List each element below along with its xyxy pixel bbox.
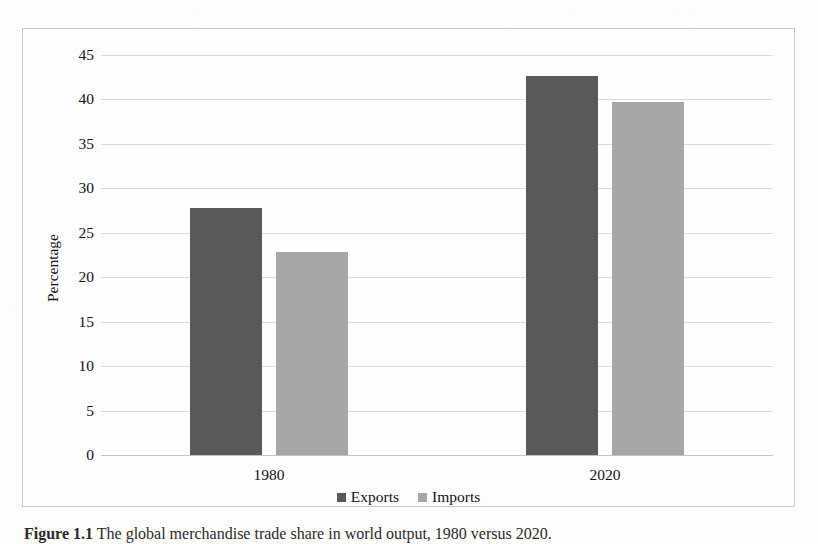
bar-group: 1980: [101, 55, 437, 455]
x-axis-tick-label: 1980: [101, 466, 437, 484]
legend-label: Imports: [432, 488, 480, 506]
legend-swatch-icon: [337, 493, 346, 502]
legend-swatch-icon: [418, 493, 427, 502]
chart-frame: Percentage 45403530252015105019802020 Ex…: [22, 28, 795, 507]
y-axis-tick-label: 20: [79, 269, 95, 285]
y-axis-tick-label: 35: [79, 136, 95, 152]
bar-exports-2020[interactable]: [526, 76, 598, 455]
legend-label: Exports: [351, 488, 399, 506]
y-axis-tick-label: 5: [86, 403, 94, 419]
y-axis-label: Percentage: [44, 234, 62, 302]
figure-caption: Figure 1.1 The global merchandise trade …: [24, 524, 784, 544]
caption-text: The global merchandise trade share in wo…: [97, 525, 552, 542]
y-axis-tick-label: 45: [79, 47, 95, 63]
y-axis-tick-label: 40: [79, 92, 95, 108]
gridline: [101, 455, 773, 456]
plot-area: 45403530252015105019802020: [101, 55, 773, 455]
bar-group: 2020: [437, 55, 773, 455]
chart-legend: ExportsImports: [23, 488, 794, 506]
legend-item-exports[interactable]: Exports: [337, 488, 399, 506]
legend-item-imports[interactable]: Imports: [418, 488, 480, 506]
y-axis-tick-label: 25: [79, 225, 95, 241]
x-axis-tick-label: 2020: [437, 466, 773, 484]
y-axis-tick-label: 0: [86, 447, 94, 463]
y-axis-tick-label: 30: [79, 181, 95, 197]
caption-label: Figure 1.1: [24, 525, 93, 542]
y-axis-tick-label: 10: [79, 358, 95, 374]
bar-exports-1980[interactable]: [190, 208, 262, 455]
bar-imports-1980[interactable]: [276, 252, 348, 455]
y-axis-tick-label: 15: [79, 314, 95, 330]
bar-imports-2020[interactable]: [612, 102, 684, 455]
